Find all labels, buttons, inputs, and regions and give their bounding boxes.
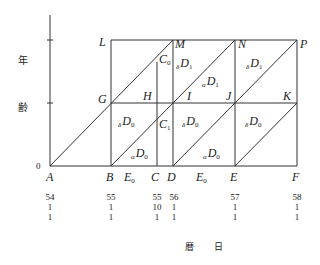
label-delta-D0-2: δD0	[182, 115, 198, 131]
x-axis-label-2: 日	[214, 240, 223, 253]
label-delta-D1-1: δD1	[176, 57, 192, 73]
point-L: L	[99, 36, 106, 48]
label-alpha-D0-2: αD0	[203, 147, 220, 163]
x-axis-label-1: 暦	[185, 240, 194, 253]
date-A: 5411	[41, 192, 59, 222]
point-C: C	[151, 171, 159, 183]
label-delta-D1-2: δD1	[246, 57, 262, 73]
lexis-diagram: 年 齢 暦 日 0 A B C D E F G H I J K L M N P …	[0, 0, 320, 265]
date-B: 5511	[102, 192, 120, 222]
point-M: M	[175, 38, 185, 50]
point-F: F	[292, 171, 299, 183]
label-delta-D0-1: δD0	[118, 115, 134, 131]
origin-label: 0	[36, 160, 41, 172]
label-E0-left: E0	[124, 171, 135, 187]
date-F: 5811	[288, 192, 306, 222]
point-D: D	[167, 171, 176, 183]
point-H: H	[143, 90, 152, 102]
label-C0: C0	[159, 53, 171, 69]
date-C: 55101	[148, 192, 166, 222]
point-I: I	[187, 90, 191, 102]
point-B: B	[106, 171, 113, 183]
diag-EK	[235, 103, 297, 166]
y-axis-label-2: 齢	[18, 99, 28, 114]
point-K: K	[283, 90, 291, 102]
label-delta-D0-3: δD0	[245, 115, 261, 131]
label-E0-right: E0	[196, 171, 207, 187]
label-C1: C1	[159, 118, 171, 134]
point-E: E	[230, 171, 237, 183]
point-J: J	[226, 90, 231, 102]
label-alpha-D1: αD1	[202, 75, 219, 91]
point-A: A	[46, 171, 53, 183]
point-N: N	[238, 38, 246, 50]
point-P: P	[300, 38, 307, 50]
point-G: G	[98, 93, 107, 105]
label-alpha-D0-1: αD0	[131, 147, 148, 163]
date-D: 5611	[165, 192, 183, 222]
y-axis-label-1: 年	[18, 52, 28, 67]
date-E: 5711	[226, 192, 244, 222]
